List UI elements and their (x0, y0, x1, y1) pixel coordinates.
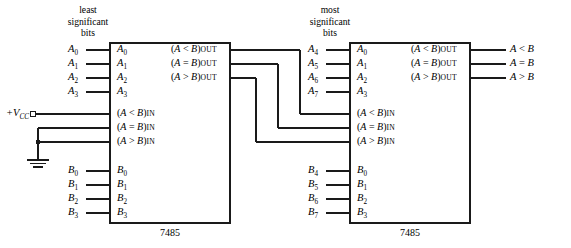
lsb-pin-a3-label: A3 (117, 86, 127, 99)
lsb-external-b2-label: B2 (68, 193, 78, 206)
final-output-a-gt-b-label: A > B (510, 72, 534, 83)
caption-line-1: least (56, 4, 120, 16)
lsb-external-a1-label: A1 (68, 58, 78, 71)
lsb-pin-a1-label: A1 (117, 58, 127, 71)
msb-external-b4-label: B4 (308, 165, 318, 178)
circuit-diagram: least significant bits A0 A1 A2 A3 A0 A1… (0, 0, 571, 248)
caption-line-2: significant (298, 16, 362, 28)
caption-line-3: bits (56, 27, 120, 39)
lsb-pin-a-lt-b-out-label: (A < B)OUT (171, 44, 217, 54)
msb-pin-a-gt-b-in-label: (A > B)IN (357, 136, 395, 146)
caption-line-3: bits (298, 27, 362, 39)
lsb-external-b3-label: B3 (68, 207, 78, 220)
most-significant-bits-caption: most significant bits (298, 4, 362, 39)
msb-pin-b2-label: B2 (357, 193, 367, 206)
msb-pin-a3-label: A3 (357, 86, 367, 99)
caption-line-2: significant (56, 16, 120, 28)
msb-chip-body (350, 43, 470, 223)
lsb-pin-a-gt-b-in-label: (A > B)IN (117, 136, 155, 146)
lsb-pin-a2-label: A2 (117, 72, 127, 85)
msb-pin-b3-label: B3 (357, 207, 367, 220)
vcc-label: +VCC (6, 108, 29, 121)
lsb-pin-b0-label: B0 (117, 165, 127, 178)
msb-pin-a-gt-b-out-label: (A > B)OUT (411, 72, 457, 82)
lsb-external-a3-label: A3 (68, 86, 78, 99)
msb-pin-a-eq-b-in-label: (A = B)IN (357, 122, 395, 132)
least-significant-bits-caption: least significant bits (56, 4, 120, 39)
caption-line-1: most (298, 4, 362, 16)
final-output-a-eq-b-label: A = B (510, 58, 534, 69)
msb-pin-a0-label: A0 (357, 44, 367, 57)
msb-pin-b0-label: B0 (357, 165, 367, 178)
msb-pin-a2-label: A2 (357, 72, 367, 85)
msb-external-b5-label: B5 (308, 179, 318, 192)
msb-external-b7-label: B7 (308, 207, 318, 220)
msb-pin-b1-label: B1 (357, 179, 367, 192)
msb-chip-part-number: 7485 (350, 228, 470, 238)
msb-pin-a1-label: A1 (357, 58, 367, 71)
lsb-pin-a-lt-b-in-label: (A < B)IN (117, 108, 155, 118)
msb-pin-a-eq-b-out-label: (A = B)OUT (411, 58, 457, 68)
lsb-pin-a0-label: A0 (117, 44, 127, 57)
lsb-pin-b2-label: B2 (117, 193, 127, 206)
lsb-pin-b1-label: B1 (117, 179, 127, 192)
msb-external-a4-label: A4 (308, 44, 318, 57)
msb-external-a6-label: A6 (308, 72, 318, 85)
msb-external-a5-label: A5 (308, 58, 318, 71)
lsb-external-a0-label: A0 (68, 44, 78, 57)
final-output-a-lt-b-label: A < B (510, 44, 534, 55)
lsb-pin-a-eq-b-out-label: (A = B)OUT (171, 58, 217, 68)
vcc-terminal-circle (30, 111, 36, 117)
lsb-external-b1-label: B1 (68, 179, 78, 192)
lsb-pin-a-gt-b-out-label: (A > B)OUT (171, 72, 217, 82)
msb-external-b6-label: B6 (308, 193, 318, 206)
msb-pin-a-lt-b-in-label: (A < B)IN (357, 108, 395, 118)
lsb-chip-part-number: 7485 (110, 228, 230, 238)
msb-external-a7-label: A7 (308, 86, 318, 99)
lsb-external-b0-label: B0 (68, 165, 78, 178)
lsb-chip-body (110, 43, 230, 223)
lsb-pin-b3-label: B3 (117, 207, 127, 220)
msb-pin-a-lt-b-out-label: (A < B)OUT (411, 44, 457, 54)
gnd-junction-dot (36, 140, 41, 145)
lsb-external-a2-label: A2 (68, 72, 78, 85)
lsb-pin-a-eq-b-in-label: (A = B)IN (117, 122, 155, 132)
